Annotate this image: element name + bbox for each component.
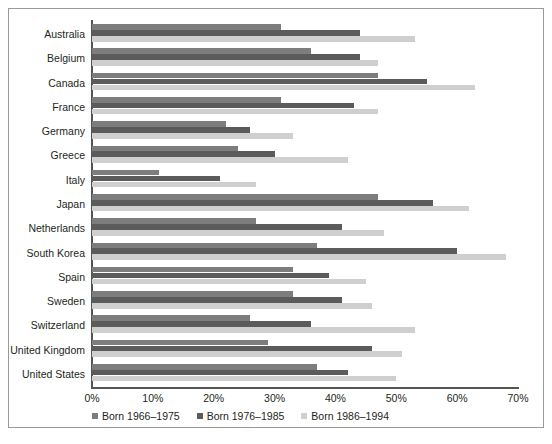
bar bbox=[92, 48, 311, 54]
category-label: Sweden bbox=[47, 295, 85, 307]
bar bbox=[92, 224, 342, 230]
x-axis-tick-labels: 0%10%20%30%40%50%60%70% bbox=[92, 392, 518, 408]
bar bbox=[92, 364, 317, 370]
bar bbox=[92, 340, 268, 346]
bar bbox=[92, 121, 226, 127]
bar-row: Sweden bbox=[92, 289, 518, 313]
bar-group bbox=[92, 194, 518, 214]
bar bbox=[92, 30, 360, 36]
category-label: Greece bbox=[51, 149, 85, 161]
legend-swatch-icon bbox=[301, 413, 307, 419]
bar bbox=[92, 273, 329, 279]
bar-group bbox=[92, 291, 518, 311]
bar-row: Japan bbox=[92, 192, 518, 216]
legend-label: Born 1966–1975 bbox=[102, 410, 180, 422]
bar-group bbox=[92, 48, 518, 68]
bar bbox=[92, 133, 293, 139]
bar-group bbox=[92, 24, 518, 44]
category-label: Italy bbox=[66, 174, 85, 186]
category-label: Australia bbox=[44, 28, 85, 40]
x-tick-label: 10% bbox=[142, 392, 163, 405]
bar bbox=[92, 146, 238, 152]
legend-item[interactable]: Born 1966–1975 bbox=[92, 410, 180, 422]
bar bbox=[92, 103, 354, 109]
legend-swatch-icon bbox=[92, 413, 98, 419]
legend-item[interactable]: Born 1986–1994 bbox=[301, 410, 389, 422]
bar bbox=[92, 279, 366, 285]
category-label: France bbox=[52, 101, 85, 113]
bar-row: Italy bbox=[92, 168, 518, 192]
bar-row: Netherlands bbox=[92, 216, 518, 240]
chart-container: AustraliaBelgiumCanadaFranceGermanyGreec… bbox=[0, 0, 552, 444]
bar bbox=[92, 243, 317, 249]
legend-label: Born 1986–1994 bbox=[311, 410, 389, 422]
bar bbox=[92, 85, 475, 91]
bar-row: Greece bbox=[92, 143, 518, 167]
bar bbox=[92, 351, 402, 357]
bar-group bbox=[92, 364, 518, 384]
bar-rows: AustraliaBelgiumCanadaFranceGermanyGreec… bbox=[92, 22, 518, 386]
value-axis-line bbox=[91, 387, 519, 389]
bar bbox=[92, 97, 281, 103]
bar-group bbox=[92, 146, 518, 166]
bar bbox=[92, 346, 372, 352]
bar bbox=[92, 297, 342, 303]
bar-group bbox=[92, 243, 518, 263]
bar-row: Canada bbox=[92, 71, 518, 95]
bar bbox=[92, 248, 457, 254]
bar-row: Switzerland bbox=[92, 313, 518, 337]
bar bbox=[92, 157, 348, 163]
bar bbox=[92, 254, 506, 260]
bar-row: United States bbox=[92, 362, 518, 386]
x-tick-label: 30% bbox=[264, 392, 285, 405]
bar bbox=[92, 170, 159, 176]
bar bbox=[92, 206, 469, 212]
bar bbox=[92, 79, 427, 85]
bar-group bbox=[92, 267, 518, 287]
bar-group bbox=[92, 340, 518, 360]
category-label: United Kingdom bbox=[10, 344, 85, 356]
bar-row: United Kingdom bbox=[92, 337, 518, 361]
bar bbox=[92, 321, 311, 327]
category-label: Canada bbox=[48, 77, 85, 89]
bar-group bbox=[92, 73, 518, 93]
bar bbox=[92, 54, 360, 60]
category-label: Germany bbox=[42, 125, 85, 137]
bar bbox=[92, 194, 378, 200]
bar bbox=[92, 200, 433, 206]
category-label: Switzerland bbox=[31, 319, 85, 331]
legend-swatch-icon bbox=[197, 413, 203, 419]
plot-area: AustraliaBelgiumCanadaFranceGermanyGreec… bbox=[92, 22, 518, 386]
bar bbox=[92, 151, 275, 157]
bar bbox=[92, 60, 378, 66]
x-tick-label: 50% bbox=[386, 392, 407, 405]
bar-row: France bbox=[92, 95, 518, 119]
legend-label: Born 1976–1985 bbox=[207, 410, 285, 422]
x-tick-label: 70% bbox=[507, 392, 528, 405]
category-label: Japan bbox=[56, 198, 85, 210]
legend-item[interactable]: Born 1976–1985 bbox=[197, 410, 285, 422]
bar bbox=[92, 370, 348, 376]
bar bbox=[92, 291, 293, 297]
bar-row: South Korea bbox=[92, 240, 518, 264]
bar-group bbox=[92, 121, 518, 141]
bar bbox=[92, 24, 281, 30]
bar-group bbox=[92, 170, 518, 190]
bar bbox=[92, 327, 415, 333]
category-label: Netherlands bbox=[28, 222, 85, 234]
bar-row: Australia bbox=[92, 22, 518, 46]
x-tick-label: 60% bbox=[447, 392, 468, 405]
x-tick-label: 0% bbox=[84, 392, 99, 405]
bar-group bbox=[92, 315, 518, 335]
category-label: South Korea bbox=[27, 247, 85, 259]
bar-row: Spain bbox=[92, 265, 518, 289]
bar bbox=[92, 182, 256, 188]
bar-group bbox=[92, 218, 518, 238]
bar bbox=[92, 218, 256, 224]
bar bbox=[92, 176, 220, 182]
bar bbox=[92, 109, 378, 115]
x-tick-label: 20% bbox=[203, 392, 224, 405]
bar bbox=[92, 127, 250, 133]
bar-group bbox=[92, 97, 518, 117]
bar bbox=[92, 73, 378, 79]
